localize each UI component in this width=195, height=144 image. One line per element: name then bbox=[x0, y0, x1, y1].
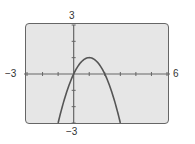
axes bbox=[24, 25, 170, 123]
xmax-label: 6 bbox=[173, 69, 179, 79]
graph-plot bbox=[0, 0, 195, 144]
ymin-label: −3 bbox=[66, 127, 77, 137]
xmin-label: −3 bbox=[5, 69, 16, 79]
parabola-curve bbox=[58, 58, 120, 123]
ymax-label: 3 bbox=[69, 11, 75, 21]
